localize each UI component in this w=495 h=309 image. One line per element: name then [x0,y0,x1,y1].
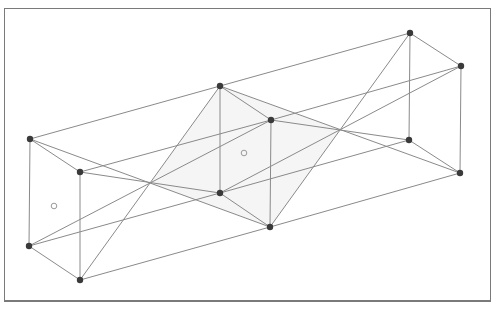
vertex-G [217,190,223,196]
vertex-C [407,30,413,36]
edge-B-C [220,33,410,86]
edge-H-I [409,140,460,173]
vertex-F [268,117,274,123]
vertex-A [27,136,33,142]
edge-D-I [460,66,461,173]
edge-J-K [29,246,80,280]
edge-K-L [80,227,270,280]
wireframe-box-diagram [0,0,495,309]
edge-F-D [271,66,461,120]
vertex-H [406,137,412,143]
vertex-B [217,83,223,89]
shaded-plane-polygon [150,86,340,227]
edge-C-H [409,33,410,140]
edge-A-E [30,139,80,172]
vertex-E [77,169,83,175]
vertex-L [267,224,273,230]
shaded-plane [150,86,340,227]
edge-A-J [29,139,30,246]
open-circle-marker [51,203,57,209]
vertex-K [77,277,83,283]
vertex-D [458,63,464,69]
vertex-J [26,243,32,249]
edge-J-G [29,193,220,246]
vertex-I [457,170,463,176]
edge-C-D [410,33,461,66]
